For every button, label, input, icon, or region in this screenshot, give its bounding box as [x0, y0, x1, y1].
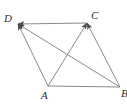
diagonal-AC [48, 23, 87, 86]
geometry-figure: D C A B [0, 0, 127, 112]
vertex-label-D: D [4, 13, 12, 24]
edge-AB [48, 86, 120, 87]
vertex-label-C: C [91, 10, 98, 21]
figure-canvas [0, 0, 127, 112]
edge-CB [87, 23, 120, 87]
vertex-label-A: A [41, 90, 48, 101]
edge-DC [18, 23, 87, 24]
vertex-label-B: B [121, 88, 127, 99]
